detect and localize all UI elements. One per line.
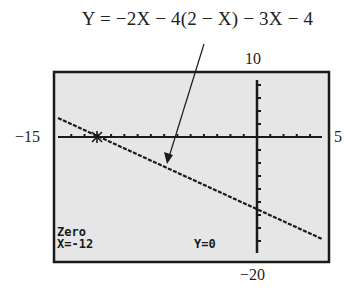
y-readout: Y=0 <box>194 238 216 250</box>
calculator-screen-frame <box>54 72 329 262</box>
graph-screen <box>0 0 357 301</box>
x-readout: X=-12 <box>57 238 93 250</box>
